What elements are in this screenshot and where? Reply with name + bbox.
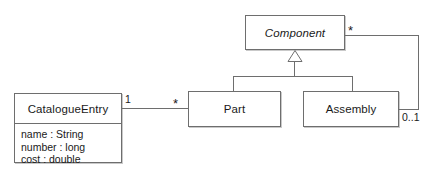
association-line-catalogue-part — [122, 108, 188, 109]
generalization-triangle-icon — [287, 50, 303, 62]
class-attributes-catalogue-entry: name : String number : long cost : doubl… — [15, 123, 121, 169]
class-box-catalogue-entry[interactable]: CatalogueEntry name : String number : lo… — [14, 93, 122, 163]
generalization-drop-part — [233, 76, 234, 92]
class-name-part: Part — [189, 92, 280, 126]
generalization-stem — [294, 61, 295, 77]
attribute-number: number : long — [21, 141, 115, 154]
class-box-assembly[interactable]: Assembly — [303, 91, 399, 127]
class-name-component: Component — [246, 16, 344, 49]
multiplicity-assembly-side: 0..1 — [402, 112, 420, 123]
attribute-name: name : String — [21, 128, 115, 141]
assembly-component-edge-bottom — [399, 109, 419, 110]
class-name-catalogue-entry: CatalogueEntry — [15, 94, 121, 123]
multiplicity-catalogue-side: 1 — [125, 94, 131, 105]
attribute-cost: cost : double — [21, 153, 115, 166]
class-box-component[interactable]: Component — [245, 15, 345, 50]
generalization-drop-assembly — [352, 76, 353, 92]
assembly-component-edge-right — [418, 35, 419, 110]
multiplicity-part-side: * — [173, 99, 178, 108]
assembly-component-edge-top — [345, 35, 419, 36]
multiplicity-component-side: * — [348, 26, 353, 35]
class-box-part[interactable]: Part — [188, 91, 281, 127]
class-name-assembly: Assembly — [304, 92, 398, 126]
generalization-branch-bar — [233, 76, 353, 77]
uml-class-diagram: Component Part Assembly CatalogueEntry n… — [0, 0, 438, 175]
